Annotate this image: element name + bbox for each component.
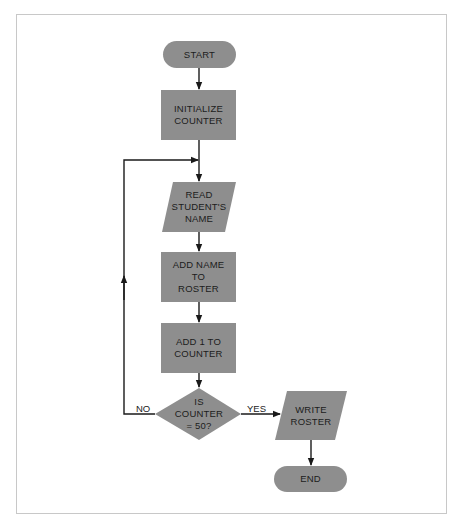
start-terminator [163, 41, 236, 68]
read-name-input [162, 182, 236, 232]
write-roster-output [275, 391, 347, 440]
end-terminator [274, 466, 347, 492]
flowchart [0, 0, 464, 527]
counter-decision [155, 388, 241, 440]
yes-edge-label: YES [247, 403, 266, 414]
no-edge-label: NO [136, 403, 150, 414]
add-one-process [161, 323, 236, 373]
initialize-counter-process [161, 90, 236, 140]
add-name-process [161, 252, 236, 302]
